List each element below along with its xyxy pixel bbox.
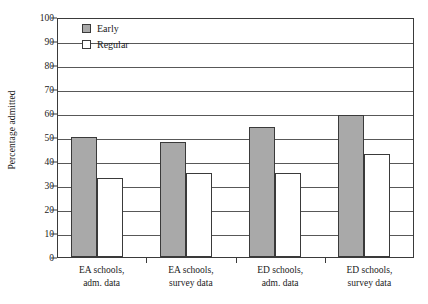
y-tick-label: 30 xyxy=(26,181,54,191)
category-label-line: survey data xyxy=(325,277,414,290)
bar-regular-group-3 xyxy=(275,173,301,257)
plot-area xyxy=(57,18,414,258)
bar-chart: Percentage admitted 01020304050607080901… xyxy=(0,0,428,304)
category-label-line: EA schools, xyxy=(146,264,235,277)
y-tick-label: 10 xyxy=(26,229,54,239)
category-label-line: adm. data xyxy=(236,277,325,290)
category-label-group-1: EA schools,adm. data xyxy=(57,264,146,289)
y-axis-title-text: Percentage admitted xyxy=(7,90,17,169)
bar-early-group-1 xyxy=(71,137,97,257)
bar-regular-group-1 xyxy=(97,178,123,257)
legend-label: Early xyxy=(97,23,119,34)
bar-early-group-2 xyxy=(160,142,186,257)
y-tick-label: 100 xyxy=(26,13,54,23)
bar-early-group-4 xyxy=(338,115,364,257)
y-axis-title: Percentage admitted xyxy=(0,0,24,260)
legend-item-regular: Regular xyxy=(82,38,129,51)
category-label-group-3: ED schools,adm. data xyxy=(236,264,325,289)
y-tick-label: 80 xyxy=(26,61,54,71)
category-label-line: adm. data xyxy=(57,277,146,290)
category-label-group-4: ED schools,survey data xyxy=(325,264,414,289)
gridline xyxy=(58,91,413,92)
legend-swatch-regular-icon xyxy=(82,40,91,49)
bar-early-group-3 xyxy=(249,127,275,257)
gridline xyxy=(58,67,413,68)
x-tick-mark xyxy=(325,258,326,263)
x-tick-mark xyxy=(146,258,147,263)
y-tick-label: 40 xyxy=(26,157,54,167)
legend-label: Regular xyxy=(97,39,129,50)
y-tick-label: 0 xyxy=(26,253,54,263)
x-tick-mark xyxy=(236,258,237,263)
y-tick-label: 90 xyxy=(26,37,54,47)
y-tick-label: 70 xyxy=(26,85,54,95)
legend-swatch-early-icon xyxy=(82,24,91,33)
category-label-group-2: EA schools,survey data xyxy=(146,264,235,289)
category-label-line: EA schools, xyxy=(57,264,146,277)
legend-item-early: Early xyxy=(82,22,129,35)
bar-regular-group-2 xyxy=(186,173,212,257)
category-label-line: ED schools, xyxy=(236,264,325,277)
bar-regular-group-4 xyxy=(364,154,390,257)
legend: EarlyRegular xyxy=(82,22,129,51)
y-tick-label: 50 xyxy=(26,133,54,143)
category-label-line: ED schools, xyxy=(325,264,414,277)
y-tick-label: 20 xyxy=(26,205,54,215)
y-tick-label: 60 xyxy=(26,109,54,119)
category-label-line: survey data xyxy=(146,277,235,290)
